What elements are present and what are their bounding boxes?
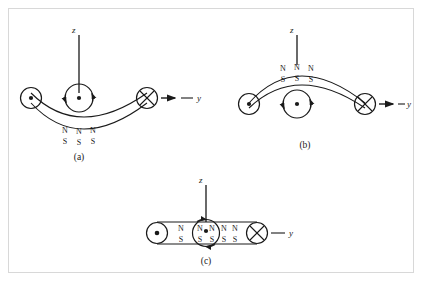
panel-c-center-dot-icon <box>204 229 208 233</box>
panel-b-left-dot-icon <box>247 102 251 106</box>
panel-c-y-label: y <box>288 228 293 238</box>
panel-a-circulation-arrow-left <box>65 94 66 103</box>
panel-a-pole-n-1: N <box>62 126 68 135</box>
panel-a-circulation-arrow-right <box>92 93 93 102</box>
panel-b-pole-s-2: S <box>295 74 299 83</box>
panel-b-z-label: z <box>289 25 294 35</box>
panel-a-toroid-upper-edge <box>31 93 147 117</box>
panel-b: z N N N S S S <box>239 25 412 151</box>
panel-a: z N N N S S S <box>21 25 202 163</box>
panel-a-pole-s-2: S <box>77 138 81 147</box>
panel-c-pole-n-4: N <box>221 224 227 233</box>
panel-a-pole-n-2: N <box>76 127 82 136</box>
panel-c-pole-s-3: S <box>210 235 214 244</box>
panel-a-caption: (a) <box>74 152 85 163</box>
panel-c-pole-n-3: N <box>209 224 215 233</box>
panel-b-circulation-arrow-right <box>310 99 311 108</box>
panel-b-pole-n-2: N <box>294 63 300 72</box>
panel-b-toroid-upper-edge <box>249 76 365 103</box>
panel-a-pole-s-3: S <box>91 137 95 146</box>
panel-c-pole-n-5: N <box>232 224 238 233</box>
panel-a-left-dot-icon <box>29 96 33 100</box>
panel-b-toroid-lower-edge <box>249 85 365 108</box>
panel-b-y-label: y <box>406 99 411 109</box>
panel-c: z N N N N N S S S S <box>147 175 294 267</box>
panel-a-y-label: y <box>196 93 201 103</box>
panel-b-pole-n-1: N <box>280 64 286 73</box>
panel-c-caption: (c) <box>201 256 212 267</box>
panel-c-pole-s-5: S <box>233 235 237 244</box>
panel-a-center-dot-icon <box>77 96 81 100</box>
panel-b-pole-s-3: S <box>309 75 313 84</box>
panel-c-pole-n-2: N <box>197 224 203 233</box>
panel-b-circulation-arrow-left <box>283 100 284 109</box>
panel-c-pole-n-1: N <box>178 224 184 233</box>
panel-c-pole-s-1: S <box>179 235 183 244</box>
panel-b-pole-n-3: N <box>308 64 314 73</box>
panel-b-center-dot-icon <box>295 102 299 106</box>
panel-c-z-label: z <box>198 175 203 185</box>
panel-a-z-label: z <box>71 25 76 35</box>
panel-b-caption: (b) <box>299 140 310 151</box>
physics-figure-svg: z N N N S S S <box>9 9 415 274</box>
panel-c-pole-s-4: S <box>222 235 226 244</box>
panel-a-pole-s-1: S <box>63 137 67 146</box>
panel-c-left-dot-icon <box>155 231 160 236</box>
panel-a-pole-n-3: N <box>90 126 96 135</box>
figure-frame: z N N N S S S <box>8 8 414 273</box>
panel-b-pole-s-1: S <box>281 75 285 84</box>
panel-c-pole-s-2: S <box>198 235 202 244</box>
